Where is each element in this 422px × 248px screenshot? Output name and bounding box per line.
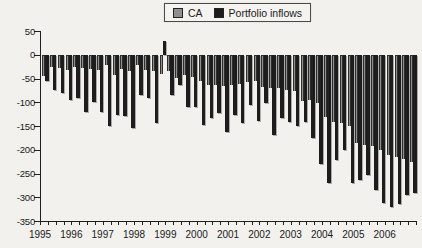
x-axis-quarter-tick	[244, 222, 245, 225]
x-axis-quarter-tick	[291, 222, 292, 225]
x-tick-label-1997: 1997	[86, 229, 120, 240]
portfolio-bar-2005Q3	[374, 55, 378, 190]
x-tick-label-2006: 2006	[368, 229, 402, 240]
x-axis-quarter-tick	[158, 222, 159, 225]
x-axis-quarter-tick	[275, 222, 276, 225]
x-axis-quarter-tick	[181, 222, 182, 225]
x-axis-quarter-tick	[400, 222, 401, 225]
x-axis-quarter-tick	[103, 222, 104, 225]
x-axis-quarter-tick	[314, 222, 315, 225]
portfolio-bar-2004Q3	[343, 55, 347, 150]
x-axis-quarter-tick	[416, 222, 417, 225]
x-axis-quarter-tick	[189, 222, 190, 225]
portfolio-bar-1996Q1	[76, 55, 80, 98]
x-axis-quarter-tick	[87, 222, 88, 225]
portfolio-bar-1995Q2	[53, 55, 57, 90]
x-axis-quarter-tick	[306, 222, 307, 225]
portfolio-bar-2003Q3	[311, 55, 315, 139]
portfolio-bar-1997Q3	[123, 55, 127, 116]
portfolio-bar-1998Q1	[139, 55, 143, 95]
x-axis-quarter-tick	[385, 222, 386, 225]
portfolio-bar-1997Q4	[131, 55, 135, 128]
portfolio-bar-1997Q1	[108, 55, 112, 127]
x-axis-quarter-tick	[361, 222, 362, 225]
x-axis-quarter-tick	[165, 222, 166, 225]
x-axis-quarter-tick	[150, 222, 151, 225]
y-tick-label: -150	[6, 121, 35, 132]
portfolio-bar-2004Q1	[327, 55, 331, 183]
x-axis-quarter-tick	[111, 222, 112, 225]
y-tick-label: -300	[6, 192, 35, 203]
x-tick-label-2005: 2005	[336, 229, 370, 240]
portfolio-bar-1996Q2	[84, 55, 88, 112]
portfolio-bar-2001Q2	[241, 55, 245, 123]
x-axis-quarter-tick	[95, 222, 96, 225]
x-tick-label-2003: 2003	[274, 229, 308, 240]
portfolio-bar-1999Q4	[194, 55, 198, 108]
portfolio-bar-1995Q4	[69, 55, 73, 100]
x-axis-quarter-tick	[48, 222, 49, 225]
y-tick-label: -100	[6, 97, 35, 108]
x-axis-quarter-tick	[212, 222, 213, 225]
x-axis-quarter-tick	[40, 222, 41, 225]
x-axis-quarter-tick	[259, 222, 260, 225]
y-tick-label: -200	[6, 144, 35, 155]
portfolio-bar-1999Q3	[186, 55, 190, 107]
portfolio-bar-2005Q2	[366, 55, 370, 175]
portfolio-bar-2005Q4	[382, 55, 386, 204]
x-axis-quarter-tick	[267, 222, 268, 225]
x-axis-quarter-tick	[71, 222, 72, 225]
portfolio-bar-1996Q4	[100, 55, 104, 112]
x-axis-quarter-tick	[236, 222, 237, 225]
y-tick-label: -350	[6, 216, 35, 227]
x-axis-quarter-tick	[56, 222, 57, 225]
x-axis-quarter-tick	[353, 222, 354, 225]
x-axis-quarter-tick	[299, 222, 300, 225]
portfolio-bar-2006Q4	[413, 55, 417, 193]
portfolio-bar-2002Q4	[288, 55, 292, 122]
x-axis-quarter-tick	[408, 222, 409, 225]
x-axis-quarter-tick	[393, 222, 394, 225]
plot-area	[40, 31, 417, 222]
portfolio-bar-1997Q2	[116, 55, 120, 115]
portfolio-bar-2003Q1	[296, 55, 300, 127]
y-tick-label: 0	[6, 49, 35, 60]
x-tick-label-2004: 2004	[305, 229, 339, 240]
x-axis-quarter-tick	[126, 222, 127, 225]
x-axis-quarter-tick	[322, 222, 323, 225]
portfolio-bar-2006Q2	[398, 55, 402, 205]
portfolio-bar-2003Q4	[319, 55, 323, 164]
portfolio-bar-1995Q3	[61, 55, 65, 93]
portfolio-bar-2001Q1	[233, 55, 237, 115]
portfolio-bar-2000Q3	[217, 55, 221, 113]
y-tick-label: -250	[6, 168, 35, 179]
scanned-chart-figure: CA Portfolio inflows 500-50-100-150-200-…	[0, 0, 422, 248]
x-axis-quarter-tick	[173, 222, 174, 225]
portfolio-bar-2002Q1	[264, 55, 268, 103]
portfolio-bar-1996Q3	[92, 55, 96, 103]
x-axis-quarter-tick	[369, 222, 370, 225]
x-axis-quarter-tick	[205, 222, 206, 225]
x-tick-label-1999: 1999	[148, 229, 182, 240]
bar-chart: 500-50-100-150-200-250-300-3501995199619…	[0, 0, 422, 248]
portfolio-bar-2004Q2	[335, 55, 339, 160]
y-tick-label: -50	[6, 73, 35, 84]
portfolio-bar-2002Q2	[272, 55, 276, 135]
x-axis-quarter-tick	[142, 222, 143, 225]
x-axis-quarter-tick	[346, 222, 347, 225]
x-axis-quarter-tick	[330, 222, 331, 225]
portfolio-bar-2004Q4	[351, 55, 355, 184]
portfolio-bar-2000Q1	[202, 55, 206, 125]
x-axis-quarter-tick	[134, 222, 135, 225]
x-tick-label-1998: 1998	[117, 229, 151, 240]
x-tick-label-2002: 2002	[242, 229, 276, 240]
portfolio-bar-2001Q4	[257, 55, 261, 121]
y-tick-label: 50	[6, 26, 35, 37]
x-tick-label-1995: 1995	[23, 229, 57, 240]
x-axis-quarter-tick	[338, 222, 339, 225]
portfolio-bar-1998Q2	[147, 55, 151, 98]
portfolio-bar-2005Q1	[358, 55, 362, 180]
x-axis-quarter-tick	[197, 222, 198, 225]
portfolio-bar-1999Q1	[170, 55, 174, 95]
portfolio-bar-2000Q2	[210, 55, 214, 119]
